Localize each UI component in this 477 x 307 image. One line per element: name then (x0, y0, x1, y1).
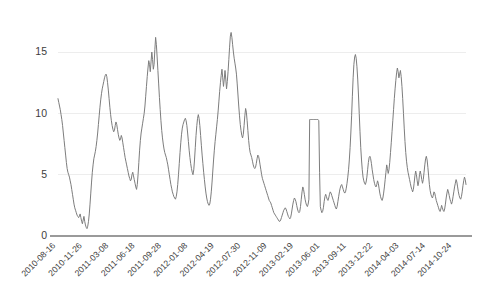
y-tick-label: 15 (35, 45, 47, 57)
y-tick-label: 5 (41, 168, 47, 180)
chart-canvas: 051015 2010-08-162010-11-262011-03-08201… (0, 0, 477, 307)
y-tick-label: 0 (41, 229, 47, 241)
line-chart: 051015 2010-08-162010-11-262011-03-08201… (0, 0, 477, 307)
y-tick-label: 10 (35, 107, 47, 119)
